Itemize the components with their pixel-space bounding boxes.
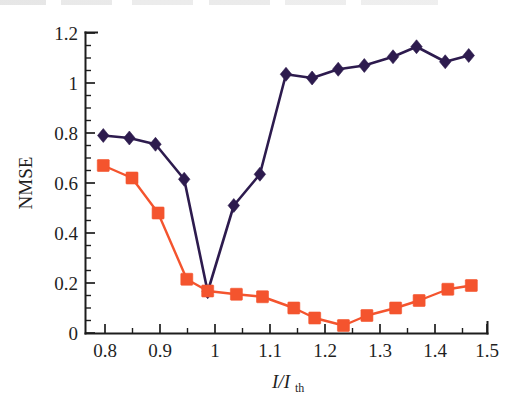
data-point-marker	[98, 129, 109, 143]
x-axis-title-main: I/I	[271, 371, 292, 392]
data-point-marker	[463, 49, 474, 63]
x-tick-label: 1.1	[258, 340, 282, 361]
y-tick-label: 0.4	[54, 223, 78, 244]
x-axis-tick-labels: 0.8 0.9 1 1.1 1.2 1.3 1.4 1.5	[93, 340, 499, 361]
data-point-marker	[306, 71, 317, 85]
x-tick-label: 1.4	[423, 340, 447, 361]
data-point-marker	[126, 172, 138, 184]
x-tick-label: 0.9	[148, 340, 172, 361]
data-point-marker	[309, 312, 321, 324]
x-axis-ticks	[105, 324, 487, 333]
chart-figure: 0.8 0.9 1 1.1 1.2 1.3 1.4 1.5	[0, 0, 509, 403]
y-tick-label: 1	[69, 73, 79, 94]
data-point-marker	[152, 207, 164, 219]
data-series-layer	[97, 40, 477, 332]
y-tick-label: 0.6	[54, 173, 78, 194]
data-point-marker	[413, 295, 425, 307]
data-point-marker	[230, 288, 242, 300]
y-tick-label: 0	[69, 323, 79, 344]
data-point-marker	[411, 40, 422, 54]
data-point-marker	[280, 67, 291, 81]
data-point-marker	[337, 320, 349, 332]
x-axis-title-subscript: th	[295, 381, 304, 395]
y-axis-ticks	[86, 33, 95, 333]
x-tick-label: 1	[210, 340, 220, 361]
x-tick-label: 0.8	[93, 340, 117, 361]
data-point-marker	[390, 302, 402, 314]
data-point-marker	[202, 285, 214, 297]
series-navy-diamond-series	[98, 40, 475, 299]
y-axis-tick-labels: 0 0.2 0.4 0.6 0.8 1 1.2	[54, 23, 78, 344]
data-point-marker	[124, 131, 135, 145]
y-tick-label: 0.8	[54, 123, 78, 144]
data-point-marker	[361, 310, 373, 322]
data-point-marker	[359, 59, 370, 73]
data-point-marker	[288, 302, 300, 314]
data-point-marker	[332, 62, 343, 76]
x-tick-label: 1.3	[368, 340, 392, 361]
series-orange-square-series	[97, 160, 477, 332]
nmse-vs-current-line-chart: 0.8 0.9 1 1.1 1.2 1.3 1.4 1.5	[0, 0, 509, 403]
data-point-marker	[442, 283, 454, 295]
data-point-marker	[465, 280, 477, 292]
series-line-navy-diamond-series	[103, 47, 468, 292]
data-point-marker	[97, 160, 109, 172]
y-tick-label: 0.2	[54, 273, 78, 294]
y-axis-title: NMSE	[15, 157, 36, 210]
x-tick-label: 1.5	[475, 340, 499, 361]
x-axis-title: I/I th	[271, 371, 304, 395]
data-point-marker	[181, 273, 193, 285]
data-point-marker	[387, 50, 398, 64]
data-point-marker	[439, 55, 450, 69]
y-tick-label: 1.2	[54, 23, 78, 44]
data-point-marker	[257, 291, 269, 303]
x-tick-label: 1.2	[313, 340, 337, 361]
